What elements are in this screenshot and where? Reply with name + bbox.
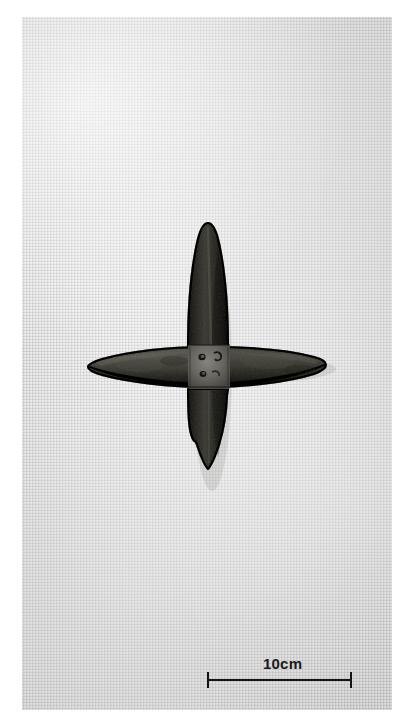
rivet-hole-upper: [198, 354, 205, 360]
artifact-horizontal-blade: [88, 347, 326, 387]
scale-bar-tick-left: [207, 672, 209, 688]
artifact-upper-arm: [188, 223, 228, 347]
photo-plate: 10cm: [22, 17, 392, 710]
centre-fitting-detail: [214, 352, 221, 360]
artifact-left-arm-bevel: [88, 366, 206, 387]
scale-bar: 10cm: [207, 655, 353, 689]
artifact-cross-shaped-object: [22, 17, 392, 710]
artifact-corrosion-patch-2: [160, 356, 188, 366]
artifact-right-arm-bevel: [210, 364, 326, 387]
artifact-corrosion-patch-1: [116, 358, 164, 372]
artifact-corrosion-patch-4: [284, 365, 316, 375]
photo-grain-overlay: [22, 17, 392, 710]
artifact-corrosion-patch-3: [242, 355, 294, 369]
figure-root: 10cm: [0, 0, 413, 725]
artifact-vertical-facet-shadow: [212, 249, 226, 347]
artifact-centre-boss: [188, 345, 230, 389]
artifact-svg: [22, 17, 392, 710]
artifact-left-arm: [88, 347, 206, 387]
artifact-cast-shadow: [88, 247, 336, 491]
centre-fitting-detail-lower: [212, 371, 219, 376]
artifact-vertical-blade: [188, 223, 228, 469]
artifact-horizontal-top-highlight-right: [210, 348, 318, 364]
rivet-hole-lower: [200, 371, 207, 377]
artifact-horizontal-top-highlight: [96, 348, 206, 366]
artifact-lower-arm: [188, 389, 228, 469]
scale-bar-rule: [207, 679, 352, 681]
artifact-right-arm: [210, 347, 326, 387]
artifact-vertical-ridge-highlight: [208, 227, 211, 347]
scale-bar-label: 10cm: [263, 655, 302, 672]
scale-bar-tick-right: [350, 672, 352, 688]
artifact-vertical-facet-shadow-lower: [212, 391, 226, 457]
